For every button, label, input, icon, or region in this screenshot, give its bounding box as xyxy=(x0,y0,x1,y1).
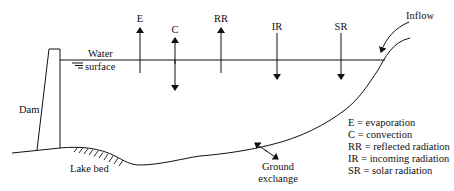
label-ground-2: exchange xyxy=(258,173,298,184)
label-incoming-radiation: IR xyxy=(272,21,283,32)
legend-item: SR = solar radiation xyxy=(348,165,433,176)
label-convection: C xyxy=(171,24,178,35)
dam xyxy=(37,49,60,150)
lake-heat-exchange-diagram: E C RR IR SR Inflow Water surface Dam La… xyxy=(0,0,454,191)
label-inflow: Inflow xyxy=(406,10,434,21)
label-dam: Dam xyxy=(19,104,39,115)
legend-item: C = convection xyxy=(348,129,413,140)
legend: E = evaporation C = convection RR = refl… xyxy=(348,117,451,176)
legend-item: RR = reflected radiation xyxy=(348,141,451,152)
label-evaporation: E xyxy=(137,13,143,24)
inflow-arrow-icon xyxy=(381,22,409,52)
legend-item: IR = incoming radiation xyxy=(348,153,450,164)
legend-item: E = evaporation xyxy=(348,117,416,128)
label-lake-bed: Lake bed xyxy=(70,163,110,174)
label-ground-1: Ground xyxy=(262,161,295,172)
label-reflected-radiation: RR xyxy=(214,13,228,24)
label-water-2: surface xyxy=(85,61,116,72)
water-surface-symbol-icon xyxy=(72,63,83,68)
label-solar-radiation: SR xyxy=(335,21,348,32)
label-water-1: Water xyxy=(88,48,113,59)
